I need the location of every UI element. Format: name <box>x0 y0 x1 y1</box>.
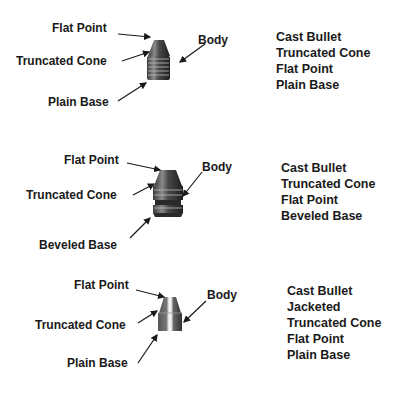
label-base: Plain Base <box>67 356 128 370</box>
description-line: Beveled Base <box>281 208 375 224</box>
label-flat-point: Flat Point <box>74 278 129 292</box>
description-line: Jacketed <box>287 299 381 315</box>
description-line: Truncated Cone <box>276 45 370 61</box>
description-line: Flat Point <box>287 331 381 347</box>
label-body: Body <box>207 288 237 302</box>
label-base: Plain Base <box>48 95 109 109</box>
description-line: Plain Base <box>276 77 370 93</box>
label-flat-point: Flat Point <box>52 21 107 35</box>
label-truncated-cone: Truncated Cone <box>35 318 126 332</box>
description-1: Cast Bullet Truncated Cone Flat Point Pl… <box>276 29 370 93</box>
description-line: Cast Bullet <box>281 160 375 176</box>
description-line: Truncated Cone <box>287 315 381 331</box>
label-truncated-cone: Truncated Cone <box>26 188 117 202</box>
description-3: Cast Bullet Jacketed Truncated Cone Flat… <box>287 283 381 363</box>
description-line: Cast Bullet <box>287 283 381 299</box>
description-line: Cast Bullet <box>276 29 370 45</box>
label-body: Body <box>198 33 228 47</box>
label-truncated-cone: Truncated Cone <box>16 54 107 68</box>
bullet-3-icon <box>158 297 182 331</box>
description-2: Cast Bullet Truncated Cone Flat Point Be… <box>281 160 375 224</box>
label-base: Beveled Base <box>39 238 117 252</box>
label-flat-point: Flat Point <box>64 153 119 167</box>
bullet-1-icon <box>147 40 170 80</box>
description-line: Truncated Cone <box>281 176 375 192</box>
description-line: Flat Point <box>281 192 375 208</box>
description-line: Flat Point <box>276 61 370 77</box>
bullet-2-icon <box>153 170 183 217</box>
description-line: Plain Base <box>287 347 381 363</box>
label-body: Body <box>202 160 232 174</box>
